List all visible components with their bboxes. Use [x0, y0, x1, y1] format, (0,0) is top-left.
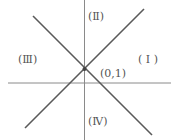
- region-label-III: (Ⅲ): [18, 53, 37, 66]
- intersection-point: [83, 67, 87, 71]
- region-label-I: ( I ): [138, 53, 158, 66]
- region-label-IV: (Ⅳ): [88, 115, 108, 128]
- coordinate-diagram: (Ⅱ) (Ⅲ) ( I ) (0,1) (Ⅳ): [0, 0, 176, 140]
- point-label: (0,1): [100, 67, 126, 80]
- region-label-II: (Ⅱ): [88, 10, 104, 23]
